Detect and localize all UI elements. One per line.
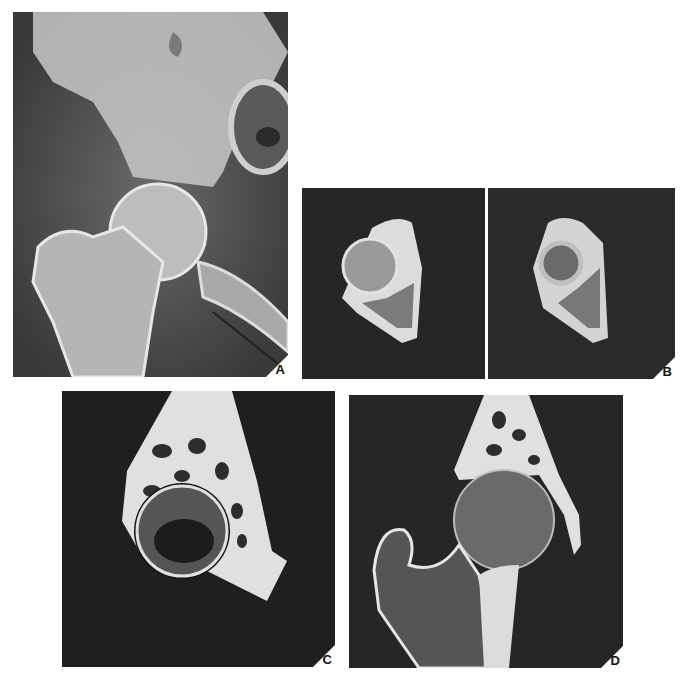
panel-label-c: C — [323, 653, 332, 666]
panel-b-left-subpanel — [302, 188, 485, 379]
panel-b-right-subpanel — [488, 188, 675, 379]
panel-c-sagittal-ct: C — [62, 391, 335, 667]
panel-label-b: B — [663, 365, 672, 378]
panel-a-radiograph: A — [13, 12, 288, 377]
panel-b-axial-ct: B — [302, 188, 675, 379]
radiograph-image — [13, 12, 288, 377]
axial-ct-left-image — [302, 188, 485, 379]
coronal-ct-image — [349, 395, 623, 668]
panel-label-a: A — [276, 363, 285, 376]
axial-ct-right-image — [488, 188, 675, 379]
panel-label-d: D — [611, 654, 620, 667]
sagittal-ct-image — [62, 391, 335, 667]
panel-d-coronal-ct: D — [349, 395, 623, 668]
